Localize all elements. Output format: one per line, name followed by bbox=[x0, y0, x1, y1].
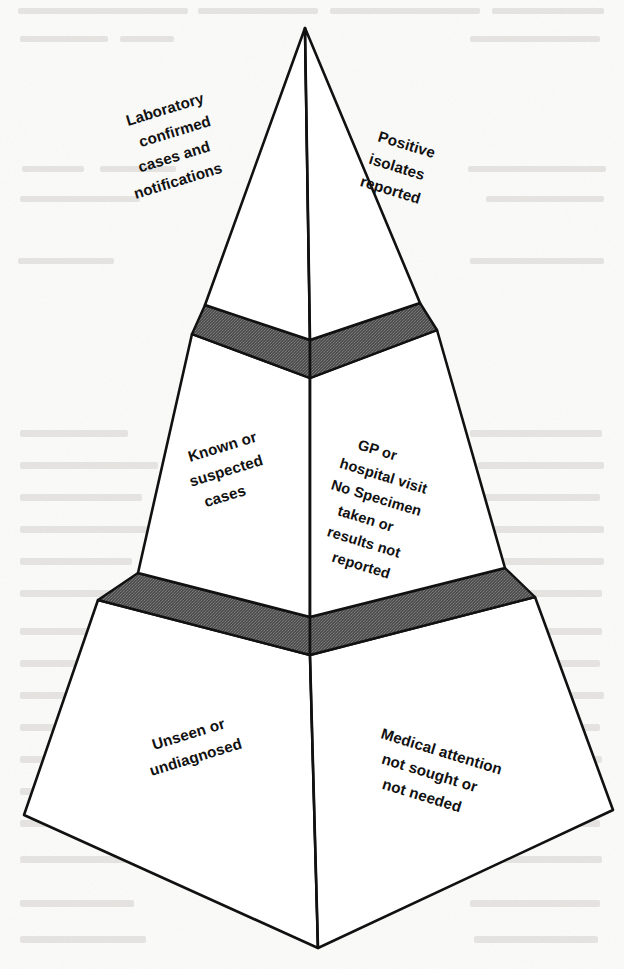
pyramid-diagram: Laboratory confirmed cases and notificat… bbox=[0, 0, 624, 969]
figure-root: Laboratory confirmed cases and notificat… bbox=[0, 0, 624, 969]
